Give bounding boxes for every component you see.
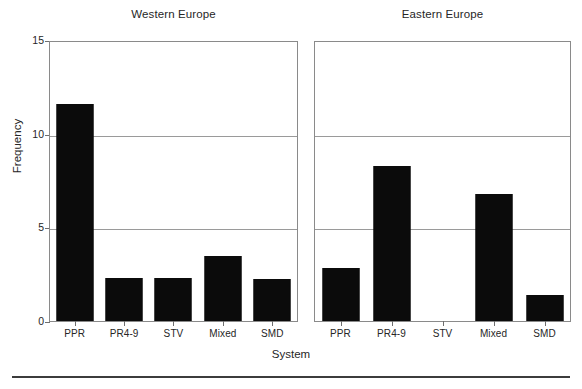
y-tick-label: 15 (22, 35, 44, 46)
y-tick-mark (45, 322, 50, 323)
x-tick-label: PR4-9 (110, 328, 139, 339)
bar-slot: PR4-9 (99, 42, 148, 321)
x-axis-label: System (0, 348, 582, 360)
bar-slot: PPR (315, 42, 366, 321)
x-tick-mark (545, 321, 546, 326)
bar-slot: Mixed (468, 42, 519, 321)
bar-slot: PR4-9 (366, 42, 417, 321)
x-tick-label: STV (433, 328, 453, 339)
figure-canvas: Western Europe Eastern Europe Frequency … (0, 0, 582, 389)
x-tick-mark (494, 321, 495, 326)
x-tick-label: Mixed (480, 328, 507, 339)
x-tick-label: SMD (261, 328, 284, 339)
panel-title-western-europe: Western Europe (50, 8, 297, 20)
y-axis-label: Frequency (11, 96, 23, 196)
x-tick-label: Mixed (209, 328, 236, 339)
bar-slot: Mixed (198, 42, 247, 321)
bar (254, 279, 291, 321)
plot-panel-eastern-europe: PPRPR4-9STVMixedSMD (314, 41, 571, 322)
x-tick-mark (173, 321, 174, 326)
bar-slot: PPR (50, 42, 99, 321)
y-tick-label: 5 (22, 222, 44, 233)
bar-slot: STV (417, 42, 468, 321)
bottom-divider-rule (12, 376, 570, 378)
bar-slot: SMD (519, 42, 570, 321)
bar (204, 256, 241, 321)
y-tick-label: 10 (22, 129, 44, 140)
x-tick-mark (272, 321, 273, 326)
bar (322, 268, 359, 321)
bar (373, 166, 410, 321)
x-tick-label: PPR (64, 328, 85, 339)
y-tick-label: 0 (22, 316, 44, 327)
panel-title-eastern-europe: Eastern Europe (315, 8, 570, 20)
x-tick-mark (223, 321, 224, 326)
x-tick-mark (392, 321, 393, 326)
x-tick-label: SMD (533, 328, 556, 339)
bar-slot: STV (149, 42, 198, 321)
x-tick-label: PR4-9 (377, 328, 406, 339)
x-tick-mark (124, 321, 125, 326)
x-tick-label: PPR (330, 328, 351, 339)
bar (526, 295, 563, 321)
bar (56, 104, 93, 321)
plot-panel-western-europe: PPRPR4-9STVMixedSMD (49, 41, 298, 322)
x-tick-label: STV (164, 328, 184, 339)
x-tick-mark (341, 321, 342, 326)
bar-slot: SMD (248, 42, 297, 321)
x-tick-mark (75, 321, 76, 326)
bars-eastern: PPRPR4-9STVMixedSMD (315, 42, 570, 321)
bar (106, 278, 143, 321)
bar (475, 194, 512, 321)
x-tick-mark (443, 321, 444, 326)
bars-western: PPRPR4-9STVMixedSMD (50, 42, 297, 321)
bar (155, 278, 192, 321)
